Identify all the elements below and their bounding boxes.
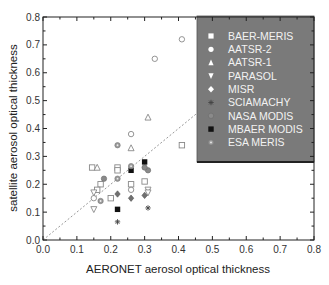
y-tick-label: 0.4	[26, 123, 40, 134]
data-point	[91, 207, 97, 213]
legend-label: SCIAMACHY	[228, 96, 290, 108]
data-point	[128, 182, 133, 187]
x-tick-label: 0.4	[172, 244, 186, 255]
data-point	[115, 207, 120, 212]
data-point	[98, 182, 103, 187]
data-point	[145, 114, 151, 120]
data-point	[128, 195, 133, 201]
x-tick-label: 0.3	[138, 244, 152, 255]
series-baer-meris	[89, 143, 184, 201]
data-point	[115, 143, 120, 148]
data-point	[89, 165, 94, 170]
x-tick-label: 0.6	[239, 244, 253, 255]
marker-dot	[117, 144, 119, 146]
data-point	[115, 168, 120, 173]
legend: BAER-MERISAATSR-2AATSR-1PARASOLMISRSCIAM…	[197, 16, 314, 162]
data-point	[115, 191, 120, 197]
data-point	[142, 179, 147, 184]
data-point	[128, 187, 133, 192]
legend-label: AATSR-1	[228, 56, 272, 68]
legend-marker	[208, 100, 213, 105]
legend-marker	[208, 140, 213, 145]
data-point	[152, 56, 157, 61]
y-tick-label: 0.2	[26, 179, 40, 190]
legend-label: MISR	[228, 83, 255, 95]
y-tick-label: 0.5	[26, 95, 40, 106]
x-tick-label: 0.1	[70, 244, 84, 255]
legend-marker	[208, 113, 213, 118]
legend-marker	[208, 33, 213, 38]
y-tick-label: 0.8	[26, 12, 40, 23]
data-point	[128, 163, 133, 168]
marker-dot	[100, 200, 102, 202]
legend-label: BAER-MERIS	[228, 30, 293, 42]
data-point	[128, 131, 133, 136]
data-point	[101, 176, 106, 181]
legend-marker	[208, 47, 213, 52]
data-point	[145, 205, 150, 210]
marker-dot	[130, 165, 132, 167]
data-point	[98, 198, 103, 203]
x-tick-label: 0.7	[273, 244, 287, 255]
y-axis-title: satellite aerosol optical thickness	[7, 44, 19, 212]
marker-dot	[117, 178, 119, 180]
x-tick-label: 0.5	[205, 244, 219, 255]
data-point	[108, 195, 113, 200]
x-tick-label: 0.8	[307, 244, 321, 255]
scatter-chart: BAER-MERISAATSR-2AATSR-1PARASOLMISRSCIAM…	[0, 0, 329, 285]
data-point	[179, 143, 184, 148]
legend-label: MBAER MODIS	[228, 123, 303, 135]
y-tick-label: 0.0	[26, 235, 40, 246]
legend-label: NASA MODIS	[228, 110, 293, 122]
legend-label: PARASOL	[228, 70, 277, 82]
marker-dot	[210, 142, 212, 144]
data-point	[115, 219, 120, 224]
x-tick-label: 0.0	[36, 244, 50, 255]
data-point	[128, 145, 134, 151]
legend-label: AATSR-2	[228, 43, 272, 55]
data-point	[179, 37, 184, 42]
legend-label: ESA MERIS	[228, 136, 285, 148]
data-point	[115, 176, 120, 181]
x-axis-title: AERONET aerosol optical thickness	[86, 263, 270, 275]
y-tick-label: 0.6	[26, 67, 40, 78]
data-points	[89, 37, 184, 225]
x-tick-label: 0.2	[104, 244, 118, 255]
y-tick-label: 0.3	[26, 151, 40, 162]
y-tick-label: 0.1	[26, 207, 40, 218]
legend-marker	[208, 126, 213, 131]
data-point	[142, 165, 147, 170]
y-tick-label: 0.7	[26, 39, 40, 50]
data-point	[142, 159, 147, 164]
